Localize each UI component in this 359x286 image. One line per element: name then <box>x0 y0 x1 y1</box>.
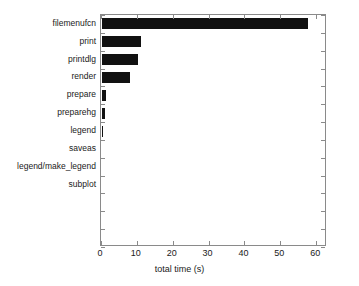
y-tick-mark-right <box>321 158 325 159</box>
y-tick-mark <box>101 51 105 52</box>
bar-row <box>101 178 327 191</box>
x-tick-mark <box>316 241 317 245</box>
x-tick-mark-top <box>173 15 174 19</box>
bar-row <box>101 142 327 155</box>
bar-row <box>101 160 327 173</box>
y-axis-category-labels: filemenufcnprintprintdlgrenderpreparepre… <box>0 14 96 246</box>
bar <box>101 107 106 120</box>
bar-row <box>101 35 327 48</box>
y-tick-mark <box>101 86 105 87</box>
y-tick-mark-right <box>321 15 325 16</box>
y-axis-label: render <box>0 71 96 81</box>
x-tick-label: 60 <box>310 248 320 258</box>
bar-row <box>101 17 327 30</box>
y-tick-mark <box>101 33 105 34</box>
y-tick-mark <box>101 229 105 230</box>
y-tick-mark <box>101 69 105 70</box>
x-tick-mark-top <box>137 15 138 19</box>
y-tick-mark-right <box>321 140 325 141</box>
x-tick-label: 50 <box>274 248 284 258</box>
x-tick-label: 10 <box>131 248 141 258</box>
y-axis-label: saveas <box>0 143 96 153</box>
x-axis-tick-labels: 0102030405060 <box>100 248 326 262</box>
x-tick-mark-top <box>316 15 317 19</box>
x-tick-mark-top <box>209 15 210 19</box>
y-axis-label: printdlg <box>0 54 96 64</box>
x-tick-mark <box>137 241 138 245</box>
x-tick-mark-top <box>280 15 281 19</box>
y-tick-mark <box>101 140 105 141</box>
x-tick-mark <box>244 241 245 245</box>
y-axis-label: legend <box>0 125 96 135</box>
bar <box>101 178 103 191</box>
x-tick-mark <box>101 241 102 245</box>
x-tick-mark <box>173 241 174 245</box>
y-tick-mark-right <box>321 193 325 194</box>
bar-row <box>101 71 327 84</box>
y-tick-mark-right <box>321 122 325 123</box>
y-axis-label: preparehg <box>0 107 96 117</box>
y-tick-mark-right <box>321 229 325 230</box>
y-tick-mark <box>101 158 105 159</box>
y-tick-mark-right <box>321 211 325 212</box>
y-tick-mark-right <box>321 51 325 52</box>
y-axis-label: print <box>0 36 96 46</box>
bar-series <box>101 15 325 245</box>
bar <box>101 142 103 155</box>
bar-row <box>101 125 327 138</box>
y-tick-mark-right <box>321 33 325 34</box>
y-tick-mark-right <box>321 69 325 70</box>
bar <box>101 125 104 138</box>
y-tick-mark <box>101 211 105 212</box>
profiler-bar-chart-figure: filemenufcnprintprintdlgrenderpreparepre… <box>0 0 359 286</box>
bar-row <box>101 53 327 66</box>
x-tick-label: 40 <box>238 248 248 258</box>
bar <box>101 17 309 30</box>
y-tick-mark <box>101 15 105 16</box>
y-tick-mark <box>101 104 105 105</box>
y-tick-mark <box>101 122 105 123</box>
bar <box>101 35 142 48</box>
y-tick-mark-right <box>321 86 325 87</box>
x-tick-label: 20 <box>167 248 177 258</box>
bar <box>101 160 103 173</box>
bar-row <box>101 89 327 102</box>
x-axis-title: total time (s) <box>0 264 359 274</box>
bar-row <box>101 107 327 120</box>
y-axis-label: filemenufcn <box>0 18 96 28</box>
y-tick-mark-right <box>321 176 325 177</box>
y-axis-label: subplot <box>0 179 96 189</box>
y-tick-mark-right <box>321 104 325 105</box>
y-tick-mark <box>101 176 105 177</box>
x-tick-mark <box>280 241 281 245</box>
x-tick-mark-top <box>244 15 245 19</box>
y-tick-mark <box>101 193 105 194</box>
y-axis-label: legend/make_legend <box>0 161 96 171</box>
y-axis-label: prepare <box>0 89 96 99</box>
x-tick-mark <box>209 241 210 245</box>
bar <box>101 71 131 84</box>
plot-area <box>100 14 326 246</box>
x-tick-label: 0 <box>97 248 102 258</box>
x-tick-label: 30 <box>203 248 213 258</box>
bar <box>101 53 139 66</box>
bar <box>101 89 107 102</box>
